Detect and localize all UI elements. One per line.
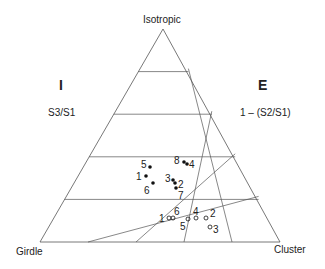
filled-point-marker <box>148 165 152 169</box>
open-point-marker <box>208 225 212 229</box>
point-label: 6 <box>174 206 180 217</box>
point-label: 4 <box>189 159 195 170</box>
open-point-marker <box>186 217 190 221</box>
filled-point-marker <box>144 174 148 178</box>
left-index-formula: S3/S1 <box>48 107 75 118</box>
filled-point-marker <box>171 178 175 182</box>
point-label: 2 <box>210 208 216 219</box>
point-label: 1 <box>136 171 142 182</box>
point-label: 7 <box>178 190 184 201</box>
triangle-frame <box>40 29 280 242</box>
point-label: 3 <box>213 224 219 235</box>
open-point-marker <box>204 216 208 220</box>
filled-point-marker <box>182 160 186 164</box>
point-label: 2 <box>178 179 184 190</box>
right-index-symbol: E <box>258 77 267 93</box>
data-points: 51684327165423 <box>136 155 219 235</box>
left-index-symbol: I <box>59 77 63 93</box>
vertex-label-girdle: Girdle <box>16 246 43 257</box>
filled-point-marker <box>151 181 155 185</box>
point-label: 6 <box>144 185 150 196</box>
point-label: 8 <box>174 155 180 166</box>
vertex-label-cluster: Cluster <box>274 244 306 255</box>
point-label: 3 <box>165 173 171 184</box>
grid-slanted-line <box>88 196 259 242</box>
point-label: 5 <box>180 221 186 232</box>
ternary-diagram: 51684327165423 <box>0 0 325 269</box>
vertex-label-isotropic: Isotropic <box>143 14 181 25</box>
grid-slanted-line <box>184 111 212 242</box>
point-label: 4 <box>193 206 199 217</box>
point-label: 1 <box>159 213 165 224</box>
filled-point-marker <box>173 181 177 185</box>
right-index-formula: 1 – (S2/S1) <box>240 107 291 118</box>
open-point-marker <box>167 216 171 220</box>
triangle-outline <box>40 29 280 242</box>
point-label: 5 <box>141 159 147 170</box>
